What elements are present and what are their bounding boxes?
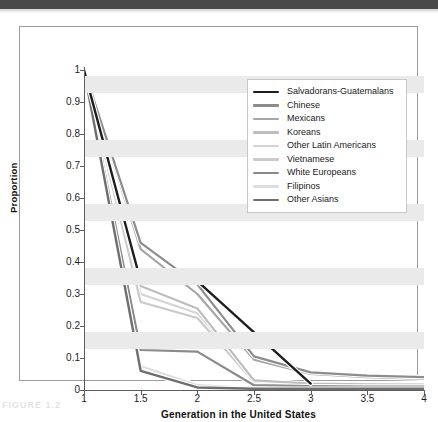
legend-item-label: Salvadorans-Guatemalans — [287, 87, 394, 96]
y-tick-mark — [80, 358, 84, 359]
x-tick-mark — [311, 391, 312, 395]
y-tick-mark — [80, 262, 84, 263]
y-tick-label: 0.4 — [66, 256, 80, 267]
y-tick-label: 0.2 — [66, 320, 80, 331]
legend-line-swatch — [253, 185, 279, 188]
y-tick-mark — [80, 230, 84, 231]
background-stripe — [84, 268, 424, 286]
legend-item[interactable]: White Europeans — [253, 166, 400, 180]
x-tick-mark — [254, 391, 255, 395]
y-tick-mark — [80, 198, 84, 199]
legend-line-swatch — [253, 199, 279, 202]
y-tick-label: 0.8 — [66, 128, 80, 139]
legend-item-label: Koreans — [287, 128, 321, 137]
legend-line-swatch — [253, 158, 279, 161]
legend-line-swatch — [253, 131, 279, 134]
legend-item[interactable]: Other Latin Americans — [253, 139, 400, 153]
y-tick-mark — [80, 102, 84, 103]
legend-line-swatch — [253, 145, 279, 148]
legend-item-label: Other Asians — [287, 195, 339, 204]
legend-item-label: White Europeans — [287, 168, 356, 177]
legend-item-label: Filipinos — [287, 182, 320, 191]
x-axis-title: Generation in the United States — [39, 409, 438, 420]
y-tick-label: 0.6 — [66, 192, 80, 203]
legend-line-swatch — [253, 104, 279, 107]
page-top-shadow — [0, 9, 438, 13]
y-tick-labels: 00.10.20.30.40.50.60.70.80.91 — [50, 27, 80, 422]
legend-item[interactable]: Salvadorans-Guatemalans — [253, 85, 400, 99]
legend-item[interactable]: Filipinos — [253, 180, 400, 194]
legend-item[interactable]: Other Asians — [253, 193, 400, 207]
x-tick-mark — [197, 391, 198, 395]
x-tick-mark — [84, 391, 85, 395]
y-tick-label: 0.1 — [66, 352, 80, 363]
y-tick-mark — [80, 134, 84, 135]
legend-line-swatch — [253, 91, 279, 94]
legend-item-label: Vietnamese — [287, 155, 334, 164]
legend-item-label: Mexicans — [287, 114, 325, 123]
y-tick-mark — [80, 326, 84, 327]
y-tick-label: 0.3 — [66, 288, 80, 299]
figure-caption-remnant: FIGURE 1.2 — [2, 400, 61, 410]
x-tick-mark — [141, 391, 142, 395]
legend-line-swatch — [253, 172, 279, 175]
legend-item-label: Chinese — [287, 101, 320, 110]
x-tick-mark — [424, 391, 425, 395]
x-tick-mark — [367, 391, 368, 395]
y-tick-mark — [80, 166, 84, 167]
legend-line-swatch — [253, 118, 279, 121]
figure-frame: 00.10.20.30.40.50.60.70.80.91 Proportion… — [19, 26, 418, 381]
legend-item[interactable]: Chinese — [253, 99, 400, 113]
legend-item-label: Other Latin Americans — [287, 141, 376, 150]
y-tick-mark — [80, 70, 84, 71]
legend-item[interactable]: Koreans — [253, 126, 400, 140]
y-tick-label: 0.9 — [66, 96, 80, 107]
y-tick-label: 0.7 — [66, 160, 80, 171]
legend-item[interactable]: Vietnamese — [253, 153, 400, 167]
legend-item[interactable]: Mexicans — [253, 112, 400, 126]
y-axis-title: Proportion — [8, 162, 19, 213]
chart-legend[interactable]: Salvadorans-GuatemalansChineseMexicansKo… — [247, 79, 407, 213]
y-tick-mark — [80, 294, 84, 295]
y-tick-label: 0.5 — [66, 224, 80, 235]
page-top-dark-band — [0, 0, 438, 9]
background-stripe — [84, 332, 424, 350]
y-axis-line — [84, 67, 85, 393]
